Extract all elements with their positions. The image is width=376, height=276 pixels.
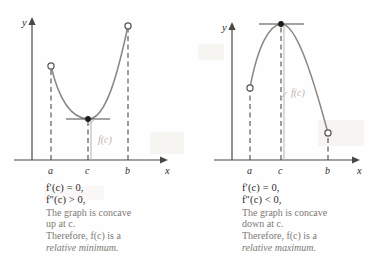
curve-parabola-up [51,26,128,119]
x-tick-label-c: c [278,165,283,176]
x-tick-label-a: a [48,165,53,176]
x-axis-label: x [164,165,170,176]
x-tick-label-b: b [125,165,130,176]
vertex-point-c [85,116,91,122]
panel-relative-maximum: y x a c b f(c) f′(c) = 0, f″(c) < 0, The… [188,0,376,276]
chart-relative-minimum: y x a c b f(c) [0,0,188,178]
y-axis-label: y [221,22,227,33]
vertex-point-c [278,21,284,27]
x-axis [214,156,360,163]
fc-annotation-label: f(c) [291,87,306,99]
curve-parabola-down [250,24,328,133]
x-axis-label: x [356,165,362,176]
endpoint-open-circle-a [48,63,54,69]
y-axis [28,17,35,160]
y-axis-label: y [21,17,27,28]
figure-page: y x a c b f(c) f′(c) = 0, f″(c) > 0, The… [0,0,376,276]
caption-relative-maximum: f′(c) = 0, f″(c) < 0, The graph is conca… [242,182,376,253]
chart-relative-maximum: y x a c b f(c) [188,0,376,178]
endpoint-open-circle-b [325,130,331,136]
fc-annotation-label: f(c) [98,134,113,146]
endpoint-open-circle-b [125,23,131,29]
fc-measure-bracket [281,26,287,160]
x-tick-label-c: c [85,165,90,176]
caption-line-3: Therefore, f(c) is a [242,230,376,242]
caption-line-1: The graph is concave [242,207,376,219]
panel-relative-minimum: y x a c b f(c) f′(c) = 0, f″(c) > 0, The… [0,0,188,276]
fc-measure-bracket [88,120,94,160]
caption-line-4: relative maximum. [242,242,376,254]
caption-line-2: down at c. [242,218,376,230]
endpoint-open-circle-a [247,85,253,91]
caption-condition-second-derivative: f″(c) < 0, [242,194,376,206]
x-tick-label-a: a [247,165,252,176]
x-tick-label-b: b [325,165,330,176]
caption-condition-first-derivative: f′(c) = 0, [242,182,376,194]
y-axis [228,22,235,160]
